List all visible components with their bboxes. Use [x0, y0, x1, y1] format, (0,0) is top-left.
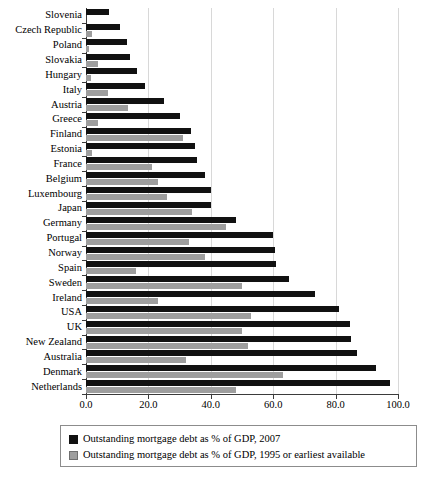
bar-1995: [86, 46, 89, 52]
y-tick-mark: [82, 260, 86, 261]
category-label: Spain: [0, 262, 82, 273]
y-tick-mark: [82, 349, 86, 350]
y-tick-mark: [82, 97, 86, 98]
bar-2007: [86, 98, 164, 104]
y-tick-mark: [82, 216, 86, 217]
y-tick-mark: [82, 23, 86, 24]
bar-2007: [86, 128, 191, 134]
bar-1995: [86, 357, 186, 363]
bar-group: [86, 306, 398, 321]
bar-2007: [86, 232, 273, 238]
category-label: France: [0, 158, 82, 169]
gridline: [398, 8, 399, 394]
category-label: Luxembourg: [0, 188, 82, 199]
bar-2007: [86, 291, 315, 297]
category-label: Hungary: [0, 69, 82, 80]
bar-2007: [86, 83, 145, 89]
bar-group: [86, 261, 398, 276]
bar-2007: [86, 157, 197, 163]
legend-swatch-icon-1995: [69, 451, 78, 460]
category-label: Finland: [0, 128, 82, 139]
bar-1995: [86, 120, 98, 126]
category-label: Czech Republic: [0, 24, 82, 35]
category-label: Australia: [0, 351, 82, 362]
bar-2007: [86, 143, 195, 149]
bar-2007: [86, 9, 109, 15]
category-label: Belgium: [0, 173, 82, 184]
bar-1995: [86, 239, 189, 245]
category-label: Portugal: [0, 232, 82, 243]
y-tick-mark: [82, 53, 86, 54]
category-label: Sweden: [0, 277, 82, 288]
bar-group: [86, 350, 398, 365]
y-tick-mark: [82, 320, 86, 321]
y-tick-mark: [82, 394, 86, 395]
mortgage-debt-bar-chart: SloveniaCzech RepublicPolandSlovakiaHung…: [0, 0, 427, 482]
chart-legend: Outstanding mortgage debt as % of GDP, 2…: [60, 425, 417, 467]
y-tick-mark: [82, 142, 86, 143]
bar-1995: [86, 224, 226, 230]
category-label: Greece: [0, 113, 82, 124]
y-tick-mark: [82, 67, 86, 68]
bar-1995: [86, 372, 283, 378]
category-label: Estonia: [0, 143, 82, 154]
bar-1995: [86, 328, 242, 334]
bar-2007: [86, 336, 351, 342]
bar-1995: [86, 61, 98, 67]
legend-entry-2007: Outstanding mortgage debt as % of GDP, 2…: [69, 431, 416, 447]
y-tick-mark: [82, 379, 86, 380]
y-tick-mark: [82, 305, 86, 306]
bar-2007: [86, 54, 130, 60]
bar-group: [86, 54, 398, 69]
category-label: Poland: [0, 39, 82, 50]
bar-2007: [86, 306, 339, 312]
bar-group: [86, 187, 398, 202]
category-label: Italy: [0, 84, 82, 95]
bar-1995: [86, 90, 108, 96]
bar-group: [86, 380, 398, 395]
legend-entry-1995: Outstanding mortgage debt as % of GDP, 1…: [69, 447, 416, 463]
category-label: Denmark: [0, 366, 82, 377]
y-tick-mark: [82, 201, 86, 202]
category-label: Japan: [0, 202, 82, 213]
bar-2007: [86, 261, 276, 267]
bar-1995: [86, 194, 167, 200]
bar-group: [86, 9, 398, 24]
bar-2007: [86, 172, 205, 178]
x-tick-label: 20.0: [128, 399, 168, 410]
category-label: New Zealand: [0, 336, 82, 347]
bar-2007: [86, 365, 376, 371]
bar-group: [86, 202, 398, 217]
bar-group: [86, 83, 398, 98]
bar-group: [86, 291, 398, 306]
bar-2007: [86, 24, 120, 30]
bar-group: [86, 217, 398, 232]
category-label: Germany: [0, 217, 82, 228]
bar-group: [86, 365, 398, 380]
bar-1995: [86, 268, 136, 274]
bar-2007: [86, 350, 357, 356]
bar-group: [86, 321, 398, 336]
bar-group: [86, 157, 398, 172]
bar-group: [86, 276, 398, 291]
bar-group: [86, 113, 398, 128]
bar-1995: [86, 343, 248, 349]
bar-1995: [86, 31, 92, 37]
y-tick-mark: [82, 186, 86, 187]
x-tick-label: 60.0: [253, 399, 293, 410]
legend-swatch-icon-2007: [69, 435, 78, 444]
y-tick-mark: [82, 231, 86, 232]
legend-label-1995: Outstanding mortgage debt as % of GDP, 1…: [83, 449, 365, 461]
bar-2007: [86, 39, 127, 45]
bar-1995: [86, 387, 236, 393]
bar-2007: [86, 380, 390, 386]
bar-2007: [86, 113, 180, 119]
y-tick-mark: [82, 82, 86, 83]
category-label: Austria: [0, 99, 82, 110]
bar-2007: [86, 321, 350, 327]
category-label: Norway: [0, 247, 82, 258]
bar-group: [86, 98, 398, 113]
x-tick-label: 40.0: [191, 399, 231, 410]
bar-group: [86, 232, 398, 247]
y-tick-mark: [82, 364, 86, 365]
